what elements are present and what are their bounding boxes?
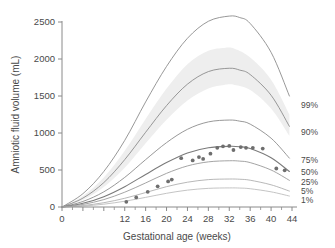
percentile-curve-50 <box>62 146 289 207</box>
amniotic-fluid-percentile-chart: 05001000150020002500 0121620242832364044… <box>0 0 335 248</box>
scatter-point <box>227 144 231 148</box>
x-tick-label: 0 <box>59 213 64 224</box>
x-tick-label: 32 <box>224 213 235 224</box>
scatter-point <box>197 155 201 159</box>
percentile-curve-75 <box>62 120 289 207</box>
scatter-point <box>274 167 278 171</box>
scatter-point <box>283 168 287 172</box>
x-tick-label: 12 <box>119 213 130 224</box>
x-tick-label: 20 <box>161 213 172 224</box>
scatter-point <box>146 190 150 194</box>
x-tick-label: 28 <box>203 213 214 224</box>
y-tick-label: 500 <box>39 164 55 175</box>
chart-canvas: 05001000150020002500 0121620242832364044… <box>0 0 335 248</box>
scatter-point <box>251 146 255 150</box>
scatter-point <box>179 156 183 160</box>
percentile-label-99: 99% <box>301 100 318 110</box>
percentile-curves <box>62 16 289 207</box>
scatter-point <box>209 152 213 156</box>
scatter-point <box>170 178 174 182</box>
y-tick-label: 1000 <box>34 127 55 138</box>
percentile-labels: 99%90%75%50%25%5%1% <box>301 100 318 205</box>
scatter-point <box>134 195 138 199</box>
y-tick-label: 0 <box>50 201 55 212</box>
scatter-point <box>166 180 170 184</box>
scatter-point <box>221 144 225 148</box>
scatter-point <box>124 200 128 204</box>
percentile-label-1: 1% <box>301 195 314 205</box>
y-tick-label: 2000 <box>34 53 55 64</box>
scatter-point <box>191 158 195 162</box>
y-axis-title: Amniotic fluid volume (mL) <box>10 56 21 174</box>
y-tick-label: 2500 <box>34 16 55 27</box>
x-tick-label: 24 <box>182 213 193 224</box>
percentile-curve-25 <box>62 161 289 207</box>
percentile-curve-5 <box>62 179 289 207</box>
percentile-label-50: 50% <box>301 167 318 177</box>
y-axis-ticks: 05001000150020002500 <box>34 16 62 212</box>
x-tick-label: 44 <box>287 213 298 224</box>
scatter-point <box>232 148 236 152</box>
scatter-point <box>261 147 265 151</box>
scatter-point <box>244 146 248 150</box>
scatter-point <box>201 157 205 161</box>
x-tick-label: 40 <box>266 213 277 224</box>
scatter-point <box>156 184 160 188</box>
x-axis-ticks: 0121620242832364044 <box>59 207 297 224</box>
y-tick-label: 1500 <box>34 90 55 101</box>
percentile-label-90: 90% <box>301 127 318 137</box>
percentile-curve-99 <box>62 16 289 207</box>
percentile-label-75: 75% <box>301 155 318 165</box>
scatter-point <box>239 145 243 149</box>
x-axis-title: Gestational age (weeks) <box>123 231 231 242</box>
x-tick-label: 16 <box>140 213 151 224</box>
scatter-point <box>215 146 219 150</box>
x-tick-label: 36 <box>245 213 256 224</box>
